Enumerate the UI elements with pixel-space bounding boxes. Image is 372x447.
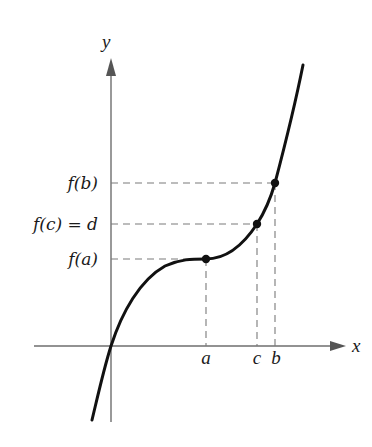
point-b <box>271 179 279 187</box>
label-f-of-b: f(b) <box>66 173 98 193</box>
ivt-diagram: y x f(b) f(c) = d f(a) a c b <box>0 0 372 447</box>
y-axis-arrow-icon <box>106 58 116 76</box>
tick-label-a: a <box>201 347 211 368</box>
label-f-of-a: f(a) <box>66 249 98 269</box>
tick-label-b: b <box>271 347 281 368</box>
point-a <box>202 255 210 263</box>
points <box>202 179 279 263</box>
axes <box>34 58 346 422</box>
label-f-of-c-equals-d: f(c) = d <box>31 214 98 234</box>
guide-lines <box>111 183 275 346</box>
x-axis-arrow-icon <box>330 341 346 351</box>
y-axis-label: y <box>100 31 111 52</box>
x-axis-label: x <box>351 335 361 356</box>
point-c <box>253 220 261 228</box>
tick-label-c: c <box>253 347 262 368</box>
